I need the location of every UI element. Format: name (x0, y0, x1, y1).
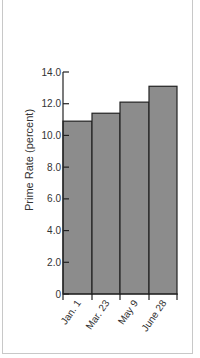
y-tick-label: 4.0 (47, 225, 61, 236)
y-tick-label: 10.0 (42, 130, 62, 141)
bars (63, 86, 177, 294)
y-tick-label: 8.0 (47, 162, 61, 173)
y-tick-label: 2.0 (47, 257, 61, 268)
y-tick-label: 0 (55, 289, 61, 300)
x-tick-label: Mar. 23 (83, 297, 111, 331)
y-tick-label: 14.0 (42, 67, 62, 78)
bar (92, 113, 120, 294)
x-tick-label: Jan. 1 (58, 297, 83, 326)
y-tick-label: 12.0 (42, 98, 62, 109)
y-tick-label: 6.0 (47, 193, 61, 204)
x-tick-label: May 9 (116, 297, 141, 326)
bar (120, 102, 149, 294)
bar (63, 121, 92, 294)
x-ticks: Jan. 1Mar. 23May 9June 28 (58, 294, 177, 333)
y-axis-label: Prime Rate (percent) (23, 109, 35, 211)
bar-chart: 02.04.06.08.010.012.014.0 Jan. 1Mar. 23M… (0, 0, 200, 358)
bar (149, 86, 177, 294)
x-tick-label: June 28 (139, 297, 169, 333)
